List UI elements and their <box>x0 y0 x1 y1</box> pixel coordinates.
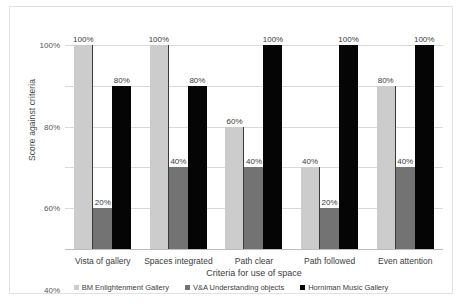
chart-frame: Score against criteria 0%20%40%60%80%100… <box>9 6 453 294</box>
bar: 100% <box>74 45 93 249</box>
y-axis-tick-label: 100% <box>40 41 60 50</box>
bar-value-label: 40% <box>246 158 262 166</box>
legend-swatch-icon <box>300 285 305 290</box>
bar-value-label: 100% <box>338 36 358 44</box>
bar-value-label: 40% <box>170 158 186 166</box>
legend-item[interactable]: V&A Understanding objects <box>185 283 284 292</box>
bar: 60% <box>225 127 244 249</box>
bar-value-label: 20% <box>322 199 338 207</box>
bar-value-label: 100% <box>149 36 169 44</box>
bar: 40% <box>244 167 263 249</box>
bar-value-label: 60% <box>226 118 242 126</box>
x-axis-category-label: Path clear <box>235 256 273 266</box>
bar: 40% <box>169 167 188 249</box>
bar-value-label: 40% <box>397 158 413 166</box>
chart-legend: BM Enlightenment GalleryV&A Understandin… <box>10 283 452 292</box>
bar: 40% <box>301 167 320 249</box>
bar: 40% <box>396 167 415 249</box>
bar-value-label: 100% <box>414 36 434 44</box>
bar: 100% <box>263 45 282 249</box>
bar-value-label: 20% <box>95 199 111 207</box>
bar-value-label: 100% <box>73 36 93 44</box>
x-axis-category-label: Spaces integrated <box>144 256 213 266</box>
y-axis-tick-label: 60% <box>44 204 60 213</box>
bar-group-bars: 60%40%100% <box>216 45 292 249</box>
x-axis-category-label: Path followed <box>304 256 355 266</box>
bar: 80% <box>377 86 396 249</box>
legend-item[interactable]: Horniman Music Gallery <box>300 283 388 292</box>
bar-value-label: 100% <box>263 36 283 44</box>
legend-swatch-icon <box>185 285 190 290</box>
bar: 100% <box>339 45 358 249</box>
x-axis-category-label: Vista of gallery <box>75 256 131 266</box>
bar: 20% <box>93 208 112 249</box>
y-axis-title: Score against criteria <box>27 60 37 180</box>
bar-group-bars: 100%20%80% <box>65 45 141 249</box>
bar: 80% <box>112 86 131 249</box>
bar-group-bars: 100%40%80% <box>141 45 217 249</box>
bar-group: 80%40%100%Even attention <box>367 45 443 249</box>
x-axis-category-label: Even attention <box>378 256 432 266</box>
y-axis-tick-label: 80% <box>44 122 60 131</box>
legend-label: BM Enlightenment Gallery <box>82 283 169 292</box>
bar: 100% <box>415 45 434 249</box>
legend-label: V&A Understanding objects <box>193 283 284 292</box>
legend-item[interactable]: BM Enlightenment Gallery <box>74 283 169 292</box>
bar: 80% <box>188 86 207 249</box>
bar-group-bars: 40%20%100% <box>292 45 368 249</box>
x-axis-title: Criteria for use of space <box>65 268 443 278</box>
plot-area: 0%20%40%60%80%100%100%20%80%Vista of gal… <box>65 45 443 249</box>
bar-group: 40%20%100%Path followed <box>292 45 368 249</box>
bar: 20% <box>320 208 339 249</box>
bar-value-label: 80% <box>189 77 205 85</box>
gridline: 0% <box>65 249 443 250</box>
bar-group: 100%20%80%Vista of gallery <box>65 45 141 249</box>
bar-value-label: 40% <box>302 158 318 166</box>
legend-swatch-icon <box>74 285 79 290</box>
bar-group: 100%40%80%Spaces integrated <box>141 45 217 249</box>
bar-value-label: 80% <box>378 77 394 85</box>
bar: 100% <box>150 45 169 249</box>
bar-group-bars: 80%40%100% <box>367 45 443 249</box>
bar-value-label: 80% <box>114 77 130 85</box>
bar-group: 60%40%100%Path clear <box>216 45 292 249</box>
legend-label: Horniman Music Gallery <box>308 283 388 292</box>
